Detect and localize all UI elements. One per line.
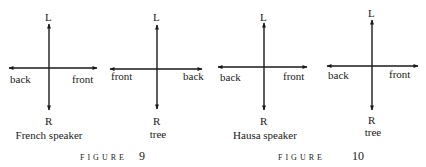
diagram-3-right-label: front	[283, 71, 304, 82]
diagram-4-bottom-label: R	[368, 115, 375, 126]
figure-9-label: FIGURE	[80, 153, 127, 163]
diagram-3-caption: Hausa speaker	[233, 130, 297, 141]
diagram-2-left-label: front	[111, 71, 132, 82]
diagram-1-caption: French speaker	[16, 130, 83, 141]
diagram-3-left-label: back	[220, 72, 241, 83]
diagram-2-axes	[110, 25, 202, 109]
diagram-4-top-label: L	[368, 8, 375, 19]
diagram-3-top-label: L	[260, 12, 267, 23]
diagram-4-axes	[327, 20, 418, 110]
diagram-1-right-label: front	[72, 74, 93, 85]
diagram-1-bottom-label: R	[45, 116, 52, 127]
diagram-1-axes	[9, 24, 97, 110]
figure-10-number: 10	[352, 150, 364, 162]
diagram-1-left-label: back	[10, 74, 31, 85]
diagram-3-bottom-label: R	[260, 116, 267, 127]
axes-canvas	[0, 0, 426, 167]
diagram-4-caption: tree	[365, 127, 381, 138]
diagram-2-caption: tree	[150, 129, 166, 140]
diagram-1-top-label: L	[45, 12, 52, 23]
diagram-2-bottom-label: R	[153, 116, 160, 127]
diagram-2-top-label: L	[153, 12, 160, 23]
diagram-4-left-label: back	[328, 70, 349, 81]
diagram-3-axes	[218, 23, 307, 110]
diagram-2-right-label: back	[183, 71, 204, 82]
figure-9-number: 9	[139, 150, 145, 162]
diagram-4-right-label: front	[389, 69, 410, 80]
figure-10-label: FIGURE	[278, 153, 325, 163]
